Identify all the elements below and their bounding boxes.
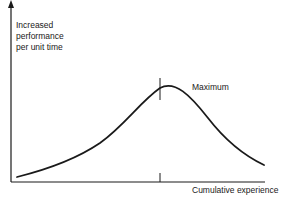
peak-label: Maximum [192, 82, 229, 93]
y-axis-label-line-3: per unit time [16, 42, 64, 53]
y-axis-arrow-icon [8, 0, 14, 8]
performance-curve [17, 86, 264, 177]
x-axis-label: Cumulative experience [192, 185, 278, 196]
y-axis-label-line-2: performance [16, 31, 64, 42]
y-axis-label: Increased performance per unit time [16, 20, 64, 53]
y-axis-label-line-1: Increased [16, 20, 64, 31]
